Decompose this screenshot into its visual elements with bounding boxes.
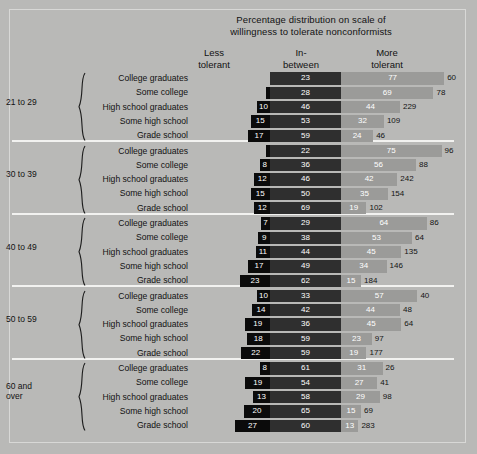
bar-segment-in-between: 61 — [270, 362, 341, 374]
education-label: Grade school — [82, 129, 188, 142]
sample-size-label: 135 — [401, 246, 417, 258]
bar-segment-less-tolerant: 10 — [257, 101, 270, 113]
education-label: Grade school — [82, 274, 188, 287]
chart-page: Percentage distribution on scale of will… — [0, 0, 477, 454]
education-label: Grade school — [82, 419, 188, 432]
education-label: High school graduates — [82, 173, 188, 186]
bar-segment-more-tolerant: 31 — [341, 362, 383, 374]
bar-segment-less-tolerant: 19 — [245, 318, 270, 330]
sample-size-label: 60 — [444, 72, 456, 84]
bar-segment-more-tolerant: 19 — [341, 347, 366, 359]
bar-segment-less-tolerant: 15 — [251, 188, 271, 200]
bar-segment-less-tolerant: 10 — [257, 290, 270, 302]
bar-segment-in-between: 46 — [270, 101, 341, 113]
bar-segment-more-tolerant: 15 — [341, 405, 361, 417]
education-label: College graduates — [82, 290, 188, 303]
age-group-label: 21 to 29 — [6, 97, 76, 108]
bar-segment-in-between: 50 — [270, 188, 341, 200]
bar-segment-in-between: 59 — [270, 333, 341, 345]
age-group-label: 40 to 49 — [6, 242, 76, 253]
education-label: Some college — [82, 304, 188, 317]
education-label: College graduates — [82, 72, 188, 85]
bar-segment-more-tolerant: 45 — [341, 318, 401, 330]
sample-size-label: 96 — [442, 145, 454, 157]
bar-segment-more-tolerant: 29 — [341, 391, 380, 403]
bar-segment-more-tolerant: 32 — [341, 115, 384, 127]
bar-segment-less-tolerant: 13 — [253, 391, 270, 403]
sample-size-label: 242 — [397, 173, 413, 185]
education-label: Some college — [82, 159, 188, 172]
bar-segment-less-tolerant: 22 — [241, 347, 270, 359]
bar-segment-more-tolerant: 35 — [341, 188, 388, 200]
bar-segment-more-tolerant: 19 — [341, 202, 366, 214]
bar-segment-less-tolerant: 18 — [247, 333, 270, 345]
bar-segment-in-between: 42 — [270, 304, 341, 316]
education-label: Grade school — [82, 347, 188, 360]
bar-segment-less-tolerant: 12 — [254, 173, 270, 185]
education-label: Some high school — [82, 187, 188, 200]
bar-segment-more-tolerant: 45 — [341, 246, 401, 258]
bar-segment-less-tolerant: 12 — [254, 202, 270, 214]
bar-segment-more-tolerant: 44 — [341, 101, 400, 113]
sample-size-label: 146 — [387, 260, 403, 272]
chart-title: Percentage distribution on scale of will… — [196, 14, 426, 37]
bar-segment-less-tolerant: 8 — [260, 362, 270, 374]
education-label: High school graduates — [82, 318, 188, 331]
bar-segment-more-tolerant: 42 — [341, 173, 397, 185]
sample-size-label: 26 — [383, 362, 395, 374]
education-label: Some high school — [82, 332, 188, 345]
bar-segment-in-between: 53 — [270, 115, 341, 127]
bar-segment-in-between: 58 — [270, 391, 341, 403]
column-header-less-tolerant-line2: tolerant — [178, 59, 250, 71]
bar-segment-less-tolerant: 17 — [248, 260, 270, 272]
bar-segment-more-tolerant: 75 — [341, 145, 442, 157]
bar-segment-more-tolerant: 77 — [341, 72, 444, 84]
bar-segment-in-between: 44 — [270, 246, 341, 258]
sample-size-label: 177 — [366, 347, 382, 359]
bar-segment-less-tolerant: 17 — [248, 130, 270, 142]
education-label: College graduates — [82, 362, 188, 375]
age-group-label-line1: 60 and — [6, 381, 76, 392]
bar-segment-in-between: 33 — [270, 290, 341, 302]
education-label: High school graduates — [82, 101, 188, 114]
chart-title-line2: willingness to tolerate nonconformists — [196, 26, 426, 38]
age-group-label-line1: 21 to 29 — [6, 97, 76, 108]
column-header-in-between-line1: In- — [271, 47, 331, 59]
age-group-label-line1: 50 to 59 — [6, 314, 76, 325]
sample-size-label: 102 — [366, 202, 382, 214]
bar-segment-in-between: 22 — [270, 145, 341, 157]
education-label: High school graduates — [82, 246, 188, 259]
sample-size-label: 283 — [358, 420, 374, 432]
bar-segment-less-tolerant: 11 — [256, 246, 270, 258]
bar-segment-in-between: 29 — [270, 217, 341, 229]
sample-size-label: 64 — [401, 318, 413, 330]
bar-segment-in-between: 69 — [270, 202, 341, 214]
bar-segment-more-tolerant: 27 — [341, 377, 377, 389]
bar-segment-in-between: 60 — [270, 420, 341, 432]
sample-size-label: 88 — [416, 159, 428, 171]
sample-size-label: 98 — [380, 391, 392, 403]
education-label: Some college — [82, 86, 188, 99]
sample-size-label: 48 — [400, 304, 412, 316]
chart-title-line1: Percentage distribution on scale of — [196, 14, 426, 26]
bar-segment-in-between: 36 — [270, 318, 341, 330]
education-label: Some high school — [82, 260, 188, 273]
bar-segment-in-between: 23 — [270, 72, 341, 84]
bar-segment-in-between: 62 — [270, 275, 341, 287]
bar-segment-less-tolerant: 15 — [251, 115, 271, 127]
sample-size-label: 229 — [400, 101, 416, 113]
age-group-label-line2: over — [6, 391, 76, 402]
sample-size-label: 41 — [377, 377, 389, 389]
age-group-label-line1: 30 to 39 — [6, 169, 76, 180]
sample-size-label: 64 — [412, 232, 424, 244]
bar-segment-less-tolerant: 7 — [261, 217, 270, 229]
education-label: Some college — [82, 376, 188, 389]
sample-size-label: 78 — [433, 87, 445, 99]
bar-segment-more-tolerant: 15 — [341, 275, 361, 287]
bar-segment-in-between: 59 — [270, 130, 341, 142]
column-header-in-between: In- between — [271, 47, 331, 70]
bar-segment-less-tolerant: 27 — [235, 420, 270, 432]
age-group-label: 50 to 59 — [6, 314, 76, 325]
education-label: Grade school — [82, 202, 188, 215]
bar-segment-more-tolerant: 56 — [341, 159, 416, 171]
